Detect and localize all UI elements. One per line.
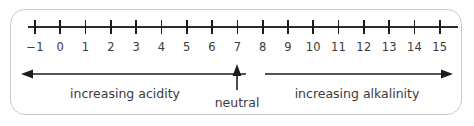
increasing-alkalinity-label: increasing alkalinity bbox=[262, 86, 452, 101]
ph-scale-figure: −10123456789101112131415 increasing acid… bbox=[0, 0, 474, 126]
